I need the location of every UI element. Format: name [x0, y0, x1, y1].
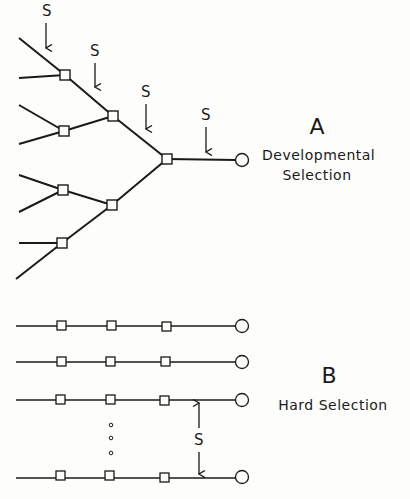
selection-label: S	[199, 106, 213, 124]
node-square	[58, 185, 68, 195]
node-square	[60, 70, 70, 80]
diagram-canvas	[0, 0, 410, 499]
node-square	[57, 238, 67, 248]
vertical-ellipsis-icon	[109, 423, 113, 455]
panel-b-nodes	[56, 320, 249, 484]
node-square	[108, 111, 118, 121]
panel-b-rows	[16, 326, 236, 478]
node-square	[162, 154, 172, 164]
node-square	[59, 126, 69, 136]
node-square	[107, 200, 117, 210]
selection-label: S	[88, 42, 102, 60]
selection-label: S	[139, 83, 153, 101]
panel-b-letter: B	[309, 363, 349, 388]
panel-a-selection-arrows	[46, 23, 206, 152]
selection-label: S	[192, 431, 206, 449]
terminal-circle	[236, 154, 249, 167]
panel-a-letter: A	[297, 114, 337, 139]
panel-a-title-line1: Developmental	[262, 146, 372, 164]
panel-b-title: Hard Selection	[268, 396, 398, 414]
panel-a-tree	[16, 38, 236, 279]
selection-label: S	[40, 2, 54, 20]
panel-a-title-line2: Selection	[262, 166, 372, 184]
